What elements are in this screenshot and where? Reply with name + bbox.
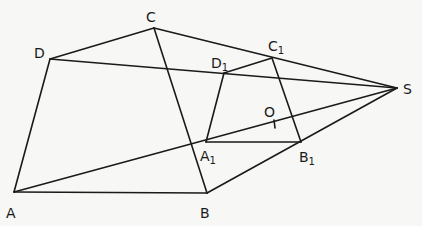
label-a1: A1 — [200, 148, 216, 166]
segment-b-s — [207, 88, 397, 193]
segment-a-b — [14, 192, 207, 193]
segment-c-s — [154, 28, 397, 88]
label-c1: C1 — [268, 38, 284, 56]
label-d: D — [34, 45, 45, 61]
segment-a-s — [14, 88, 397, 192]
label-b: B — [200, 205, 210, 221]
point-o-tick — [274, 120, 275, 128]
label-b1: B1 — [299, 149, 315, 167]
segment-d-a — [14, 59, 50, 192]
label-a: A — [6, 205, 16, 221]
segment-b-c — [154, 28, 207, 193]
label-c: C — [146, 9, 156, 25]
projection-diagram: A B C D S O A1 B1 C1 D1 — [0, 0, 422, 226]
segment-c1-d1 — [224, 58, 272, 73]
label-o: O — [264, 104, 275, 120]
segment-c-d — [50, 28, 154, 59]
label-s: S — [403, 81, 412, 97]
segments — [14, 28, 397, 193]
segment-d1-a1 — [206, 73, 224, 142]
segment-b1-c1 — [272, 58, 301, 142]
label-d1: D1 — [211, 55, 228, 73]
